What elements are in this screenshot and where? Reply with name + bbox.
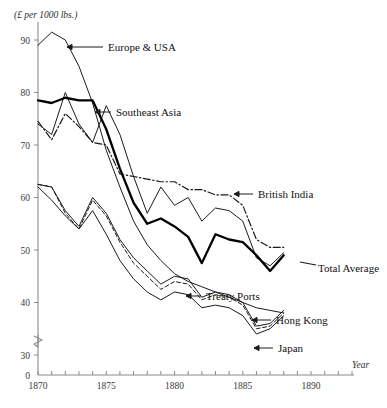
y-axis-unit-label: (£ per 1000 lbs.) xyxy=(14,10,77,21)
series-label-total-average: Total Average xyxy=(318,262,379,274)
series-line-southeast-asia xyxy=(38,93,284,266)
y-axis-tick-label: 50 xyxy=(21,246,31,256)
y-axis-tick-label: 0 xyxy=(25,371,30,381)
annotation-arrow-icon xyxy=(67,44,103,49)
x-axis-tick-label: 1880 xyxy=(165,381,184,391)
y-axis-tick-label: 60 xyxy=(21,193,31,203)
annotation-arrow-icon xyxy=(234,191,253,196)
series-line-europe-usa xyxy=(38,32,284,313)
x-axis-title: Year xyxy=(352,360,369,370)
annotation-arrow-icon xyxy=(252,317,271,322)
series-label-treaty-ports: Treaty Ports xyxy=(206,290,260,302)
annotation-arrow-icon xyxy=(254,345,273,350)
x-axis-tick-label: 1885 xyxy=(233,381,252,391)
series-label-southeast-asia: Southeast Asia xyxy=(116,106,181,118)
series-label-europe-usa: Europe & USA xyxy=(108,41,176,53)
x-axis-tick-label: 1870 xyxy=(29,381,48,391)
chart-canvas: (£ per 1000 lbs.) 030405060708090 187018… xyxy=(0,0,387,408)
y-axis-tick-label: 90 xyxy=(21,36,31,46)
series-label-japan: Japan xyxy=(278,342,304,354)
y-axis-tick-label: 30 xyxy=(21,351,31,361)
x-axis-tick-label: 1890 xyxy=(302,381,321,391)
x-axis-tick-label: 1875 xyxy=(97,381,116,391)
y-axis-tick-label: 70 xyxy=(21,141,31,151)
price-line-chart: (£ per 1000 lbs.) 030405060708090 187018… xyxy=(0,0,387,408)
x-axis: 18701875188018851890 xyxy=(29,371,355,391)
y-axis-tick-label: 80 xyxy=(21,88,31,98)
series-label-british-india: British India xyxy=(258,188,313,200)
series-lines xyxy=(38,32,284,334)
series-line-hong-kong xyxy=(38,184,284,328)
annotation-leader-line xyxy=(300,262,316,265)
series-line-british-india xyxy=(38,114,284,248)
series-line-treaty-ports xyxy=(38,184,284,326)
series-label-hong-kong: Hong Kong xyxy=(276,314,328,326)
y-axis: 030405060708090 xyxy=(21,22,43,381)
series-line-total-average xyxy=(38,98,284,271)
y-axis-tick-label: 40 xyxy=(21,298,31,308)
